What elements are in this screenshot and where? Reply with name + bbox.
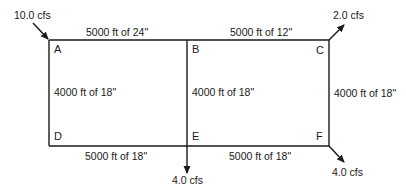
pipe-network-diagram: A B C D E F 5000 ft of 24" 5000 ft of 12… [0, 0, 406, 196]
node-label-f: F [316, 131, 323, 142]
inflow-arrow-a-icon [33, 23, 48, 39]
outflow-arrow-c-icon [329, 25, 344, 40]
pipe-label-a-b: 5000 ft of 24" [86, 27, 148, 38]
pipe-label-d-e: 5000 ft of 18" [85, 151, 147, 162]
node-label-c: C [316, 45, 324, 56]
pipe-label-e-f: 5000 ft of 18" [229, 151, 291, 162]
pipe-label-b-e: 4000 ft of 18" [192, 87, 254, 98]
pipe-label-b-c: 5000 ft of 12" [230, 27, 292, 38]
node-label-b: B [192, 44, 199, 55]
flow-label-a: 10.0 cfs [14, 10, 51, 21]
outflow-arrow-f-icon [329, 146, 344, 162]
flow-label-c: 2.0 cfs [333, 10, 364, 21]
node-label-a: A [54, 44, 61, 55]
node-label-d: D [54, 131, 62, 142]
pipe-label-a-d: 4000 ft of 18" [54, 87, 116, 98]
pipe-label-c-f: 4000 ft of 18" [334, 88, 396, 99]
node-label-e: E [192, 131, 199, 142]
flow-label-e: 4.0 cfs [172, 175, 203, 186]
flow-label-f: 4.0 cfs [332, 167, 363, 178]
